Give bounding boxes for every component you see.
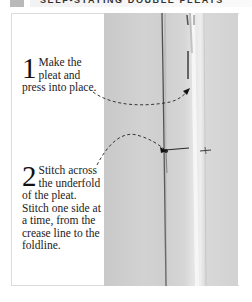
- fabric-illustration: [104, 13, 238, 286]
- section-header: SELF-STAYING DOUBLE PLEATS: [0, 0, 252, 8]
- fabric-pleat-photo: [104, 13, 238, 286]
- step-1: 1 Make the pleat and press into place.: [22, 56, 106, 94]
- step-2: 2 Stitch across the underfold of the ple…: [22, 164, 106, 252]
- step-number: 1: [22, 57, 37, 80]
- step-number: 2: [22, 165, 37, 188]
- section-title: SELF-STAYING DOUBLE PLEATS: [40, 0, 224, 5]
- header-accent-square: [10, 0, 24, 7]
